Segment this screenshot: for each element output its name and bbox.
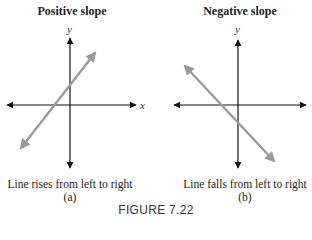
panel-b-y-label: y	[234, 23, 240, 35]
panel-b-sublabel: (b)	[225, 191, 265, 203]
panel-b-negative-slope-line	[185, 66, 274, 161]
panel-a-y-label: y	[66, 23, 72, 35]
panel-a-graph: x y	[7, 23, 145, 168]
figure-label: FIGURE 7.22	[0, 203, 312, 217]
panel-a-sublabel: (a)	[50, 191, 90, 203]
panel-a-positive-slope-line	[21, 53, 95, 148]
panel-b-graph: y	[174, 23, 306, 168]
panel-a-x-label: x	[139, 99, 145, 111]
panel-b-caption: Line falls from left to right	[165, 178, 312, 190]
panel-a-caption: Line rises from left to right	[0, 178, 150, 190]
